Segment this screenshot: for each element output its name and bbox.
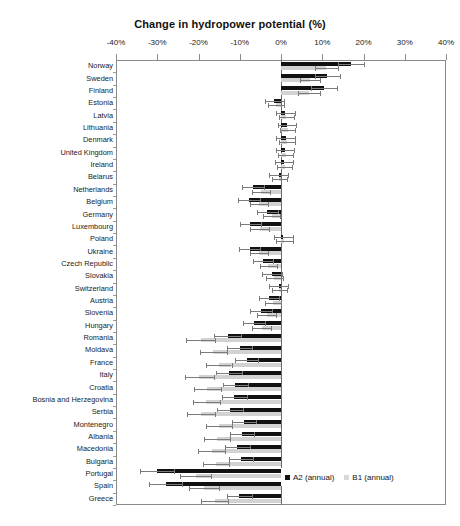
error-bar [216,373,242,374]
x-axis-tick-label: 0% [275,38,287,47]
error-bar-cap [229,462,230,467]
error-bar [266,278,283,279]
error-bar-cap [225,449,226,454]
error-bar-cap [265,99,266,104]
error-bar-cap [269,284,270,289]
error-bar [253,261,274,262]
error-bar-cap [284,103,285,108]
error-bar-cap [215,338,216,343]
error-bar-cap [271,326,272,331]
error-bar [225,447,250,448]
error-bar-cap [274,235,275,240]
error-bar [189,488,219,489]
error-bar [239,249,260,250]
error-bar [250,311,271,312]
error-bar [242,187,263,188]
error-bar-cap [174,469,175,474]
error-bar-cap [252,326,253,331]
error-bar-cap [293,239,294,244]
error-bar [300,80,321,81]
legend-swatch-icon [285,475,290,480]
error-bar-cap [228,499,229,504]
error-bar-cap [294,115,295,120]
x-axis-tick-label: -30% [148,38,167,47]
error-bar [252,192,270,193]
error-bar [240,224,261,225]
error-bar-cap [287,288,288,293]
x-axis-tick-label: 20% [355,38,371,47]
error-bar-cap [243,321,244,326]
error-bar-cap [315,74,316,79]
error-bar [223,385,248,386]
chart-title: Change in hydropower potential (%) [0,18,460,30]
error-bar [276,138,295,139]
error-bar-cap [320,91,321,96]
error-bar-cap [340,74,341,79]
error-bar-cap [364,62,365,67]
error-bar-cap [269,227,270,232]
x-axis-tick-label: -10% [230,38,249,47]
error-bar [257,212,278,213]
error-bar [265,101,285,102]
error-bar-cap [187,412,188,417]
error-bar-cap [230,437,231,442]
error-bar-cap [182,482,183,487]
error-bar [276,113,295,114]
error-bar [200,352,227,353]
error-bar-cap [276,136,277,141]
error-bar [187,414,215,415]
error-bar-cap [215,412,216,417]
legend-label: A2 (annual) [293,473,334,482]
error-bar-cap [253,259,254,264]
error-bar [277,167,292,168]
error-bar-cap [276,239,277,244]
error-bar [315,76,340,77]
error-bar [280,130,296,131]
error-bar-cap [180,474,181,479]
error-bar [263,216,280,217]
error-bar-cap [280,128,281,133]
error-bar [186,340,216,341]
error-bar-cap [189,486,190,491]
error-bar-cap [298,91,299,96]
error-bar [185,377,214,378]
legend-item: A2 (annual) [285,473,334,482]
error-bar-cap [337,86,338,91]
error-bar [203,464,229,465]
error-bar [149,484,182,485]
error-bar [206,365,232,366]
error-bar [206,426,232,427]
error-bar [257,315,275,316]
error-bar [338,64,364,65]
error-bar-cap [278,153,279,158]
error-bar-cap [278,123,279,128]
error-bar-cap [140,469,141,474]
error-bar-cap [203,462,204,467]
error-bar [252,328,271,329]
error-bar-cap [238,198,239,203]
error-bar [227,348,252,349]
error-bar-cap [259,296,260,301]
error-bar-cap [276,313,277,318]
category-tick-mark [113,505,116,506]
error-bar [198,451,225,452]
error-bar [298,93,319,94]
error-bar [278,155,293,156]
error-bar [279,142,295,143]
error-bar [243,323,265,324]
error-bar-cap [242,185,243,190]
error-bar [235,360,258,361]
error-bar [204,439,230,440]
error-bar-cap [232,363,233,368]
error-bar-cap [250,251,251,256]
error-bar [230,434,254,435]
error-bar [194,389,221,390]
error-bar-cap [280,214,281,219]
legend-swatch-icon [344,475,349,480]
error-bar [217,410,243,411]
error-bar [262,274,282,275]
error-bar-cap [268,103,269,108]
error-bar-cap [293,153,294,158]
error-bar-cap [270,190,271,195]
error-bar [279,117,295,118]
